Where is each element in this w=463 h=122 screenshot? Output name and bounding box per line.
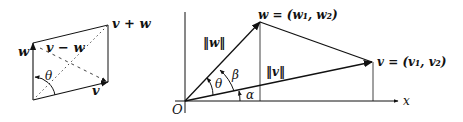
label-origin: O [172, 102, 183, 117]
label-beta: β [231, 68, 239, 82]
label-w-left: w [18, 44, 30, 59]
label-v-left: v [92, 83, 100, 98]
label-v-plus-w: v + w [112, 16, 151, 31]
label-norm-v: ‖v‖ [266, 65, 285, 79]
alpha-arc [239, 91, 240, 101]
label-v-point: v = (v₁, v₂) [377, 55, 447, 69]
w-minus-v-segment [260, 22, 372, 62]
label-v-minus-w: v − w [46, 40, 85, 55]
parallelogram-figure: w v v + w v − w θ [18, 16, 151, 100]
vector-diagram: w v v + w v − w θ O x w = (w₁, w₂) v = (… [0, 0, 463, 122]
label-theta-left: θ [45, 69, 53, 83]
label-theta-right: θ [215, 77, 223, 91]
label-w-point: w = (w₁, w₂) [258, 8, 338, 22]
theta-arc-right [207, 78, 213, 95]
label-norm-w: ‖w‖ [203, 36, 225, 50]
coordinate-figure: O x w = (w₁, w₂) v = (v₁, v₂) ‖w‖ ‖v‖ θ … [172, 8, 447, 117]
label-alpha: α [246, 88, 254, 102]
label-x-axis: x [403, 94, 410, 108]
